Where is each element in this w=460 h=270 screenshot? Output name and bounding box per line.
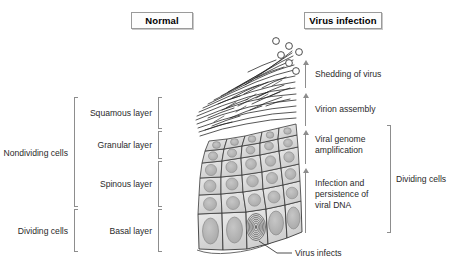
label-virus-infects: Virus infects (295, 248, 342, 259)
infected-cell-nucleus (247, 214, 266, 241)
bracket-squamous-layer (158, 97, 163, 129)
epithelium-illustration (0, 0, 460, 270)
arrow-viral-genome-amplification (302, 130, 309, 164)
label-persistence-of: persistence of (315, 189, 369, 200)
arrow-shedding-of-virus (302, 60, 309, 88)
bracket-spinous-layer (158, 161, 163, 207)
bracket-dividing-cells-right (386, 125, 391, 233)
label-squamous-layer: Squamous layer (80, 108, 152, 119)
bracket-dividing-cells-left (74, 209, 79, 252)
label-viral-dna: viral DNA (315, 200, 351, 211)
label-shedding-of-virus: Shedding of virus (315, 69, 381, 80)
diagram-canvas: Normal Virus infection (0, 0, 460, 270)
label-infection-and: Infection and (315, 178, 364, 189)
label-dividing-cells-right: Dividing cells (396, 174, 446, 185)
arrow-virion-assembly (302, 93, 309, 126)
bracket-basal-layer (158, 209, 163, 252)
label-dividing-cells-left: Dividing cells (0, 226, 68, 237)
label-viral-genome-amplification: amplification (315, 145, 363, 156)
label-nondividing-cells: Nondividing cells (0, 148, 68, 159)
label-viral-genome: Viral genome (315, 134, 365, 145)
squamous-layer-sheets (196, 51, 296, 136)
bracket-nondividing-cells (74, 97, 79, 207)
arrow-infection-persistence (302, 168, 309, 233)
bracket-granular-layer (158, 131, 163, 159)
label-spinous-layer: Spinous layer (80, 179, 152, 190)
label-virion-assembly: Virion assembly (315, 104, 376, 115)
label-basal-layer: Basal layer (80, 226, 152, 237)
label-granular-layer: Granular layer (80, 140, 152, 151)
